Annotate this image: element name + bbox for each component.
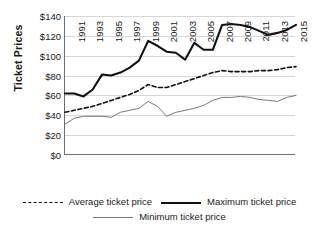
x-axis-tick-label: 2015 <box>297 21 308 42</box>
legend-item-average: Average ticket price <box>23 196 152 207</box>
data-series-lines <box>65 16 296 155</box>
legend-item-maximum: Maximum ticket price <box>161 196 296 207</box>
y-axis-tick-label: $140 <box>21 11 61 22</box>
y-axis-tick-label: $100 <box>21 50 61 61</box>
series-line-maximum <box>65 24 296 96</box>
series-line-average <box>65 67 296 113</box>
legend-label-minimum: Minimum ticket price <box>139 211 226 222</box>
legend-swatch-maximum-solid-line <box>161 199 201 205</box>
legend-swatch-average-dashed-line <box>23 199 63 205</box>
y-axis-tick-label: $20 <box>21 130 61 141</box>
legend-item-minimum: Minimum ticket price <box>93 211 226 222</box>
chart-legend: Average ticket price Maximum ticket pric… <box>0 196 319 222</box>
y-axis-tick-label: $60 <box>21 90 61 101</box>
series-line-minimum <box>65 95 296 124</box>
plot-area: $0$20$40$60$80$100$120$140 1991199319951… <box>64 16 295 155</box>
y-axis-tick-label: $40 <box>21 110 61 121</box>
legend-label-average: Average ticket price <box>69 196 152 207</box>
legend-label-maximum: Maximum ticket price <box>207 196 296 207</box>
legend-swatch-minimum-solid-line <box>93 214 133 220</box>
y-axis-tick-label: $120 <box>21 30 61 41</box>
y-axis-tick-label: $80 <box>21 70 61 81</box>
y-axis-tick-label: $0 <box>21 150 61 161</box>
ticket-price-line-chart: Ticket Prices $0$20$40$60$80$100$120$140… <box>0 0 319 237</box>
